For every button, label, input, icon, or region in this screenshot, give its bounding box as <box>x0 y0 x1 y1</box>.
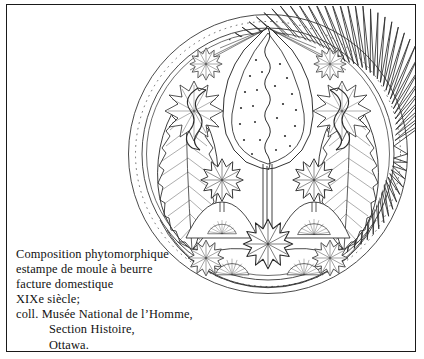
caption-line-2: estampe de moule à beurre <box>16 262 266 277</box>
caption-line-3: facture domestique <box>16 277 266 292</box>
caption-line-6: Section Histoire, <box>16 322 266 337</box>
catalog-plate-page: Composition phytomorphique estampe de mo… <box>0 0 424 359</box>
caption-line-5: coll. Musée National de l’Homme, <box>16 307 266 322</box>
caption-line-4: XIXe siècle; <box>16 292 266 307</box>
caption-line-7: Ottawa. <box>16 338 266 353</box>
figure-caption: Composition phytomorphique estampe de mo… <box>16 247 266 353</box>
caption-line-1: Composition phytomorphique <box>16 247 266 262</box>
